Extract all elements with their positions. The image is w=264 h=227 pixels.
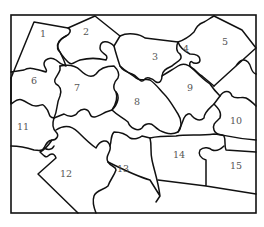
piece-label-1: 1 (40, 28, 46, 39)
piece-label-3: 3 (152, 51, 158, 62)
piece-label-10: 10 (230, 115, 242, 126)
piece-12-outline (38, 127, 116, 214)
piece-label-15: 15 (230, 160, 242, 171)
piece-5-outline (214, 16, 256, 86)
piece-9-outline (162, 64, 220, 132)
piece-label-8: 8 (134, 96, 140, 107)
piece-8-outline (112, 66, 181, 134)
piece-label-11: 11 (17, 121, 29, 132)
piece-label-13: 13 (117, 163, 129, 174)
piece-labels: 1 2 3 4 5 6 7 8 9 10 11 12 13 14 15 (17, 26, 242, 179)
piece-label-6: 6 (31, 75, 37, 86)
jigsaw-puzzle-diagram: 1 2 3 4 5 6 7 8 9 10 11 12 13 14 15 (0, 0, 264, 227)
piece-13-outline (108, 132, 160, 202)
piece-label-9: 9 (187, 82, 193, 93)
piece-label-5: 5 (222, 36, 228, 47)
piece-3-outline (114, 34, 181, 83)
piece-6-outline (11, 66, 61, 118)
piece-label-7: 7 (74, 82, 80, 93)
piece-label-12: 12 (60, 168, 72, 179)
piece-label-14: 14 (173, 149, 185, 160)
piece-2-outline (58, 16, 120, 64)
piece-7-outline (54, 65, 119, 118)
piece-label-2: 2 (83, 26, 89, 37)
piece-label-4: 4 (183, 43, 189, 54)
